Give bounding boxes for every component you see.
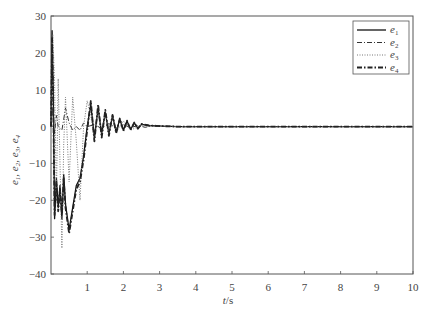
x-tick-label: 4 (193, 281, 199, 293)
x-tick-label: 5 (229, 281, 235, 293)
y-tick-label: 10 (35, 84, 47, 96)
y-axis-ticks: 3020100−10−20−30−40 (29, 10, 54, 280)
y-tick-label: −10 (29, 157, 47, 169)
x-tick-label: 10 (408, 281, 420, 293)
x-tick-label: 7 (302, 281, 308, 293)
x-tick-label: 2 (121, 281, 127, 293)
y-tick-label: 20 (35, 47, 47, 59)
x-tick-label: 8 (338, 281, 344, 293)
x-tick-label: 1 (84, 281, 90, 293)
y-tick-label: 0 (41, 121, 47, 133)
x-tick-label: 9 (374, 281, 380, 293)
svg-text:t/s: t/s (223, 294, 233, 306)
legend-box (353, 21, 409, 74)
svg-text:e1, e2, e3, e4: e1, e2, e3, e4 (8, 134, 22, 185)
y-tick-label: −30 (29, 231, 47, 243)
x-tick-label: 6 (265, 281, 271, 293)
legend: e1e2e3e4 (353, 21, 409, 75)
x-tick-label: 3 (157, 281, 163, 293)
x-axis-label: t/s (223, 294, 233, 306)
y-tick-label: −20 (29, 194, 47, 206)
y-tick-label: 30 (35, 10, 47, 22)
y-axis-label: e1, e2, e3, e4 (8, 134, 22, 185)
error-chart: 3020100−10−20−30−40 12345678910 t/s e1, … (0, 0, 422, 314)
y-tick-label: −40 (29, 268, 47, 280)
